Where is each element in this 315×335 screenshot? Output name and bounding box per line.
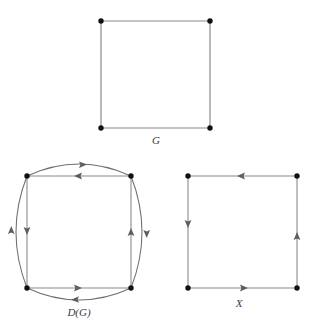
graph-figure: G: [0, 0, 315, 335]
vertex-top-left: [185, 173, 190, 178]
vertex-bottom-right: [207, 125, 212, 130]
arrowhead-right-curved-down-icon: [143, 230, 150, 238]
panel-dg-straight-arrowheads: [24, 173, 135, 292]
vertex-bottom-left: [185, 285, 190, 290]
panel-dg-label: D(G): [66, 306, 91, 319]
panel-x-edges: [188, 176, 297, 288]
arrowhead-top-curved-right-icon: [79, 161, 87, 168]
vertex-bottom-left: [98, 125, 103, 130]
arc-left-curved: [16, 176, 27, 288]
vertex-bottom-left: [24, 285, 29, 290]
vertex-bottom-right: [128, 285, 133, 290]
diagram-canvas: G: [0, 0, 315, 335]
arc-bottom-curved: [27, 288, 131, 300]
vertex-top-left: [98, 18, 103, 23]
panel-dg-curved-arrowheads: [8, 161, 150, 302]
panel-x-vertices: [185, 173, 299, 290]
panel-x-label: X: [235, 297, 244, 309]
panel-dg: D(G): [8, 161, 150, 318]
panel-dg-vertices: [24, 173, 133, 290]
vertex-top-right: [128, 173, 133, 178]
panel-g-vertices: [98, 18, 212, 130]
panel-g-edges: [101, 21, 210, 128]
panel-dg-curved-arcs: [16, 164, 142, 300]
arrowhead-bottom-curved-left-icon: [71, 296, 79, 303]
panel-g: G: [98, 18, 212, 145]
vertex-top-right: [294, 173, 299, 178]
panel-x-arrowheads: [185, 173, 301, 292]
panel-dg-straight-arcs: [27, 176, 131, 288]
vertex-top-right: [207, 18, 212, 23]
arrowhead-left-curved-up-icon: [8, 226, 15, 234]
vertex-top-left: [24, 173, 29, 178]
panel-g-label: G: [152, 134, 160, 146]
panel-x: X: [185, 173, 301, 309]
vertex-bottom-right: [294, 285, 299, 290]
